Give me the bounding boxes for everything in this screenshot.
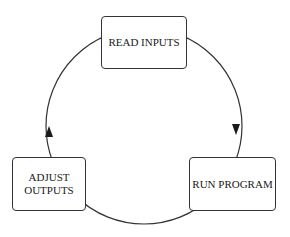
node-label: ADJUST OUTPUTS bbox=[24, 171, 74, 196]
node-run-program: RUN PROGRAM bbox=[189, 157, 276, 211]
arrow-down-icon bbox=[232, 124, 240, 135]
node-label: RUN PROGRAM bbox=[192, 178, 272, 191]
node-label: READ INPUTS bbox=[108, 36, 179, 49]
node-read-inputs: READ INPUTS bbox=[101, 16, 187, 69]
node-adjust-outputs: ADJUST OUTPUTS bbox=[12, 157, 86, 211]
